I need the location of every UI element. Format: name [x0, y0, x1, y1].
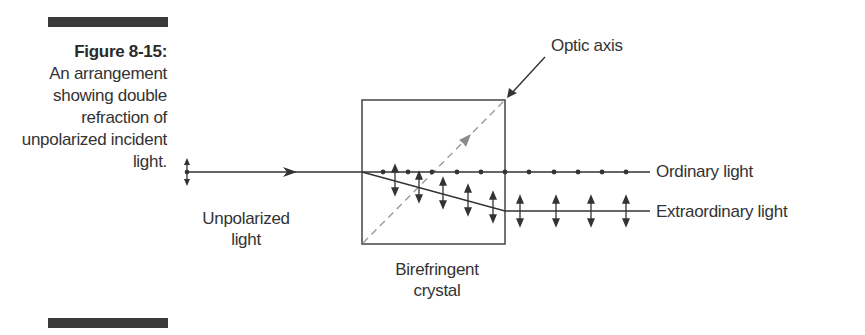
incident-label-line1: Unpolarized: [186, 208, 306, 229]
extraordinary-polarization-arrows: [392, 165, 629, 226]
crystal-label-line1: Birefringent: [372, 259, 502, 280]
unpolarized-symbol-icon: [184, 158, 190, 186]
extraordinary-ray: [362, 172, 650, 211]
optic-axis-label: Optic axis: [551, 35, 623, 56]
incident-label-line2: light: [186, 229, 306, 250]
crystal-label: Birefringent crystal: [372, 259, 502, 301]
optic-axis-pointer: [510, 57, 545, 95]
extraordinary-light-label: Extraordinary light: [656, 201, 787, 222]
ordinary-light-label: Ordinary light: [656, 161, 753, 182]
crystal-label-line2: crystal: [372, 280, 502, 301]
incident-light-label: Unpolarized light: [186, 208, 306, 250]
